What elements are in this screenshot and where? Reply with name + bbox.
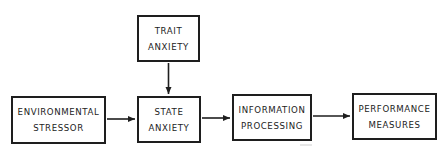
node-label-line: PROCESSING [241,118,303,134]
node-label-line: MEASURES [368,117,420,133]
node-label-line: PERFORMANCE [358,101,430,117]
scan-artifact [300,144,312,146]
node-label-line: ANXIETY [149,120,190,136]
node-label-line: STRESSOR [33,120,84,136]
node-trait-anxiety: TRAIT ANXIETY [137,15,200,62]
node-environmental-stressor: ENVIRONMENTAL STRESSOR [11,96,106,144]
node-information-processing: INFORMATION PROCESSING [232,94,312,141]
node-label-line: TRAIT [155,23,183,39]
node-label-line: ENVIRONMENTAL [18,104,100,120]
node-label-line: STATE [155,104,184,120]
node-label-line: ANXIETY [148,39,189,55]
node-performance-measures: PERFORMANCE MEASURES [352,93,437,140]
node-state-anxiety: STATE ANXIETY [137,96,201,143]
node-label-line: INFORMATION [239,102,306,118]
